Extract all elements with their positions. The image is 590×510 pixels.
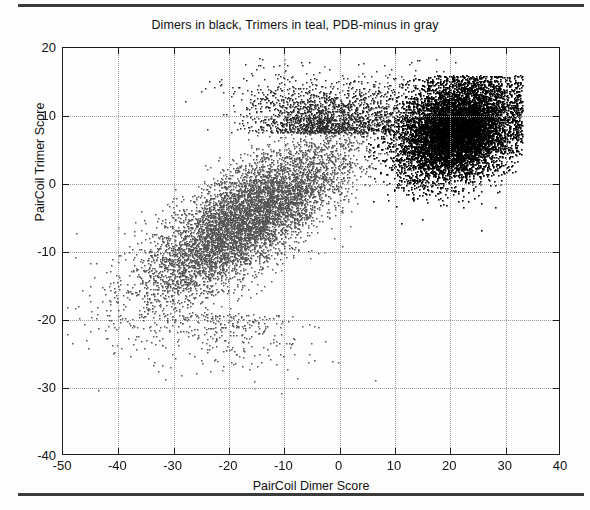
gridline-vertical (174, 48, 175, 454)
gridline-vertical (229, 48, 230, 454)
x-tick-label: 40 (553, 458, 567, 473)
x-axis-tick (450, 48, 451, 54)
y-axis-tick (63, 116, 69, 117)
y-axis-tick (553, 388, 559, 389)
y-axis-label: PairCoil Trimer Score (33, 62, 47, 262)
gridline-horizontal (63, 252, 559, 253)
x-axis-tick (284, 448, 285, 454)
gridline-horizontal (63, 116, 559, 117)
top-divider (18, 4, 584, 7)
y-axis-tick (553, 320, 559, 321)
x-tick-label: 20 (442, 458, 456, 473)
x-axis-tick (229, 48, 230, 54)
y-tick-label: -40 (16, 448, 56, 463)
x-axis-tick (118, 448, 119, 454)
x-tick-label: -10 (274, 458, 293, 473)
x-axis-tick (395, 48, 396, 54)
x-tick-label: 10 (387, 458, 401, 473)
gridline-vertical (395, 48, 396, 454)
x-axis-tick (340, 48, 341, 54)
y-axis-tick (63, 252, 69, 253)
y-axis-tick (553, 116, 559, 117)
y-tick-label: -10 (16, 244, 56, 259)
x-axis-tick (174, 48, 175, 54)
x-axis-tick (174, 448, 175, 454)
gridline-vertical (340, 48, 341, 454)
page-title: Dimers in black, Trimers in teal, PDB-mi… (0, 18, 590, 32)
x-tick-label: -40 (108, 458, 127, 473)
gridline-vertical (118, 48, 119, 454)
y-axis-tick (63, 388, 69, 389)
plot-area (62, 47, 560, 455)
y-tick-label: 20 (16, 40, 56, 55)
x-axis-tick (506, 448, 507, 454)
y-axis-tick (553, 252, 559, 253)
gridline-horizontal (63, 320, 559, 321)
x-axis-tick (229, 448, 230, 454)
bottom-divider (18, 493, 584, 496)
y-axis-tick (553, 184, 559, 185)
gridline-vertical (284, 48, 285, 454)
gridline-horizontal (63, 184, 559, 185)
gridline-horizontal (63, 388, 559, 389)
x-axis-tick (284, 48, 285, 54)
x-tick-label: 0 (335, 458, 342, 473)
x-axis-tick (118, 48, 119, 54)
x-axis-label: PairCoil Dimer Score (62, 479, 560, 493)
x-axis-tick (395, 448, 396, 454)
x-tick-label: -20 (219, 458, 238, 473)
x-axis-tick (506, 48, 507, 54)
gridline-vertical (506, 48, 507, 454)
x-axis-tick (340, 448, 341, 454)
y-tick-label: -20 (16, 312, 56, 327)
gridline-vertical (450, 48, 451, 454)
x-tick-label: -30 (163, 458, 182, 473)
y-axis-tick (63, 184, 69, 185)
x-tick-label: 30 (497, 458, 511, 473)
y-axis-tick (63, 320, 69, 321)
figure-page: Dimers in black, Trimers in teal, PDB-mi… (0, 0, 590, 510)
x-axis-tick (450, 448, 451, 454)
y-tick-label: -30 (16, 380, 56, 395)
y-tick-label: 0 (16, 176, 56, 191)
y-tick-label: 10 (16, 108, 56, 123)
